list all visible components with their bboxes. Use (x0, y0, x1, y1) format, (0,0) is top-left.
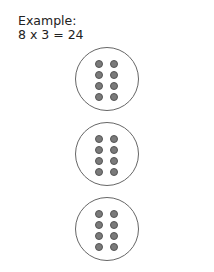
dot-icon (110, 232, 118, 240)
dot-icon (110, 146, 118, 154)
dot-icon (95, 157, 103, 165)
dot-icon (110, 221, 118, 229)
dot-icon (95, 71, 103, 79)
dot-icon (95, 93, 103, 101)
circle-group-3 (75, 197, 139, 261)
example-equation: 8 x 3 = 24 (18, 28, 84, 42)
dot-icon (110, 60, 118, 68)
circle-group-2 (75, 122, 139, 186)
dot-icon (95, 82, 103, 90)
dot-icon (95, 210, 103, 218)
dot-icon (95, 221, 103, 229)
dot-icon (95, 60, 103, 68)
dot-icon (110, 82, 118, 90)
dot-icon (95, 232, 103, 240)
dot-icon (110, 135, 118, 143)
dot-icon (110, 243, 118, 251)
dot-icon (95, 168, 103, 176)
dot-icon (110, 168, 118, 176)
dot-icon (110, 157, 118, 165)
dot-icon (110, 93, 118, 101)
dot-icon (95, 243, 103, 251)
dot-icon (110, 71, 118, 79)
dot-icon (110, 210, 118, 218)
dot-icon (95, 135, 103, 143)
dot-icon (95, 146, 103, 154)
example-label: Example: (18, 14, 76, 28)
circle-group-1 (75, 47, 139, 111)
